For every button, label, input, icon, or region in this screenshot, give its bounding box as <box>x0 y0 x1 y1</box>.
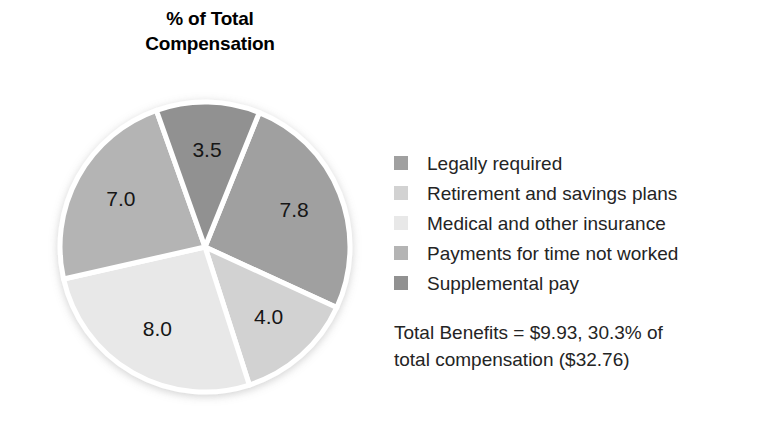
total-benefits-note-line-1: Total Benefits = $9.93, 30.3% of <box>394 320 744 347</box>
pie-slice-value-label: 3.5 <box>192 138 221 161</box>
legend-item-retirement-and-savings-plans[interactable]: Retirement and savings plans <box>394 178 678 208</box>
legend-swatch-icon <box>394 186 408 200</box>
legend-item-legally-required[interactable]: Legally required <box>394 148 678 178</box>
total-benefits-note-line-2: total compensation ($32.76) <box>394 347 744 374</box>
legend: Legally required Retirement and savings … <box>394 148 678 298</box>
legend-item-supplemental-pay[interactable]: Supplemental pay <box>394 268 678 298</box>
legend-swatch-icon <box>394 276 408 290</box>
legend-item-label: Payments for time not worked <box>427 244 678 263</box>
legend-item-label: Retirement and savings plans <box>427 184 677 203</box>
legend-item-medical-and-other-insurance[interactable]: Medical and other insurance <box>394 208 678 238</box>
legend-swatch-icon <box>394 216 408 230</box>
chart-title-line-1: % of Total <box>60 6 360 31</box>
pie-svg: 7.84.08.07.03.5 <box>58 100 352 394</box>
legend-swatch-icon <box>394 156 408 170</box>
legend-swatch-icon <box>394 246 408 260</box>
pie-slice-value-label: 7.0 <box>106 187 135 210</box>
legend-item-label: Medical and other insurance <box>427 214 666 233</box>
legend-item-label: Legally required <box>427 154 562 173</box>
legend-item-label: Supplemental pay <box>427 274 579 293</box>
pie-slice-value-label: 8.0 <box>143 317 172 340</box>
chart-title: % of Total Compensation <box>60 6 360 56</box>
pie-chart-graphic: 7.84.08.07.03.5 <box>58 100 352 394</box>
legend-item-payments-for-time-not-worked[interactable]: Payments for time not worked <box>394 238 678 268</box>
pie-slice-value-label: 7.8 <box>280 198 309 221</box>
pie-chart-figure: % of Total Compensation 7.84.08.07.03.5 … <box>0 0 769 425</box>
chart-title-line-2: Compensation <box>60 31 360 56</box>
pie-slice-value-label: 4.0 <box>254 305 283 328</box>
total-benefits-note: Total Benefits = $9.93, 30.3% of total c… <box>394 320 744 374</box>
